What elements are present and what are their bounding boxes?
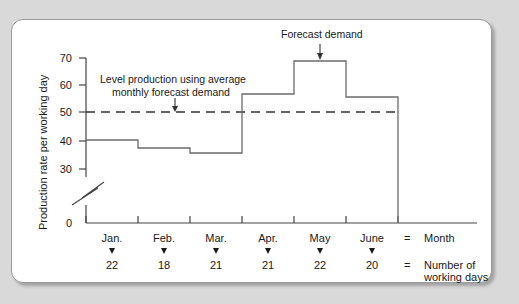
x-axis-month-feb: Feb. 18 (153, 232, 175, 271)
y-axis-title: Production rate per working day (37, 74, 49, 230)
down-triangle-icon (109, 248, 115, 254)
y-tick-label-70: 70 (60, 52, 72, 64)
working-days-value: 20 (366, 259, 378, 271)
y-tick-label-50: 50 (60, 106, 72, 118)
down-triangle-icon (265, 248, 271, 254)
x-axis-month-june: June 20 (360, 232, 384, 271)
month-label: Apr. (258, 232, 278, 244)
legend-working-days-label-line2: working days (423, 271, 489, 283)
working-days-value: 21 (210, 259, 222, 271)
level-production-annotation-line2: monthly forecast demand (112, 86, 230, 98)
down-triangle-icon (213, 248, 219, 254)
legend-equals-month: = (404, 232, 410, 244)
y-tick-marks (79, 58, 86, 169)
legend-equals-days: = (404, 259, 410, 271)
x-axis-month-apr: Apr. 21 (258, 232, 278, 271)
working-days-value: 22 (314, 259, 326, 271)
working-days-value: 22 (106, 259, 118, 271)
y-tick-label-60: 60 (60, 79, 72, 91)
figure-panel: Production rate per working day 70 60 50… (11, 19, 492, 283)
screenshot-root: Production rate per working day 70 60 50… (0, 0, 519, 304)
working-days-value: 21 (262, 259, 274, 271)
month-label: Feb. (153, 232, 175, 244)
x-axis-month-may: May 22 (310, 232, 331, 271)
production-rate-step-chart: Production rate per working day 70 60 50… (12, 20, 493, 284)
y-tick-label-40: 40 (60, 135, 72, 147)
level-production-arrow-head-icon (172, 106, 178, 112)
down-triangle-icon (317, 248, 323, 254)
y-tick-label-0: 0 (66, 217, 72, 229)
working-days-value: 18 (158, 259, 170, 271)
x-axis-month-mar: Mar. 21 (205, 232, 226, 271)
x-axis-month-jan: Jan. 22 (102, 232, 123, 271)
month-label: Jan. (102, 232, 123, 244)
forecast-demand-arrow-head-icon (317, 53, 323, 60)
y-tick-labels: 70 60 50 40 30 0 (60, 52, 72, 229)
month-label: June (360, 232, 384, 244)
y-tick-label-30: 30 (60, 163, 72, 175)
month-label: Mar. (205, 232, 226, 244)
level-production-annotation-line1: Level production using average (100, 73, 246, 85)
down-triangle-icon (161, 248, 167, 254)
legend-month-label: Month (424, 232, 455, 244)
month-label: May (310, 232, 331, 244)
forecast-demand-annotation: Forecast demand (281, 28, 363, 40)
axis-break-icon (72, 182, 104, 205)
legend-working-days-label-line1: Number of (424, 259, 476, 271)
x-axis-month-group: Jan. 22 Feb. 18 Mar. 21 Apr. (102, 232, 384, 271)
legend-group: = Month = Number of working days (404, 232, 489, 283)
down-triangle-icon (369, 248, 375, 254)
x-tick-marks (86, 216, 398, 223)
